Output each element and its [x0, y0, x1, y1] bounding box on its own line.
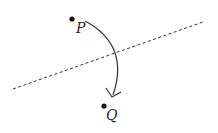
point-p: [69, 16, 74, 21]
label-q: Q: [106, 107, 118, 123]
mirror-line: [13, 22, 203, 89]
reflection-diagram: P Q: [0, 0, 218, 133]
diagram-svg: P Q: [0, 0, 218, 133]
label-p: P: [75, 20, 86, 36]
